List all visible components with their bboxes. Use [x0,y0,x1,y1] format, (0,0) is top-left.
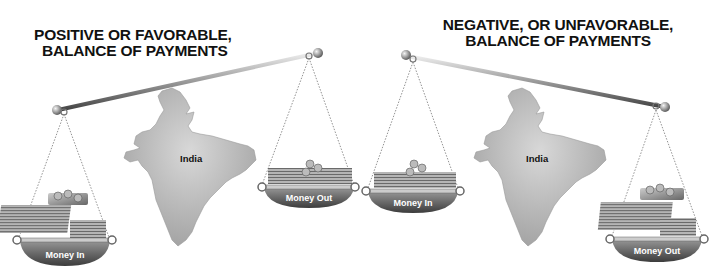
cash-stack [374,172,456,188]
balance-scales-diagram: India Money In Money Out [0,0,721,272]
india-map [124,88,256,246]
beam-end-ball [313,48,323,58]
cash-stack [268,168,352,184]
money-out-pan: Money Out [258,160,359,208]
money-in-pan: Money In [0,190,116,266]
country-label: India [526,153,549,164]
cash-stack [0,205,71,233]
left-scale: India Money In Money Out [0,48,359,266]
money-in-label: Money In [45,250,84,260]
cash-stack [660,218,696,236]
money-in-pan: Money In [362,160,464,213]
money-in-label: Money In [393,198,432,208]
money-out-pan: Money Out [598,184,708,262]
beam-end-ball [660,102,670,112]
country-label: India [180,153,203,164]
scale-beam [58,53,318,110]
scale-beam [407,56,665,107]
india-map [474,88,606,246]
money-out-label: Money Out [286,193,333,203]
cash-stack [70,220,106,238]
beam-end-ball [52,105,62,115]
money-out-label: Money Out [634,246,681,256]
right-scale: India Money In Money Out [362,50,708,262]
